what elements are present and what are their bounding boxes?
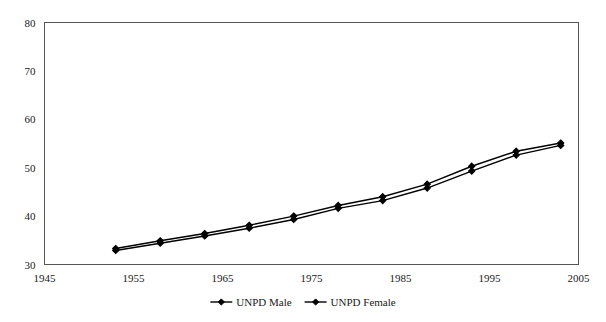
legend-item-unpd-female[interactable]: UNPD Female [305, 296, 396, 308]
x-tick-label: 2005 [568, 272, 591, 284]
legend-marker-icon [313, 299, 319, 305]
x-axis-tick-labels: 1945195519651975198519952005 [34, 272, 591, 284]
x-tick-label: 1945 [34, 272, 57, 284]
y-tick-label: 60 [25, 113, 37, 125]
chart-canvas: 304050607080 194519551965197519851995200… [0, 0, 606, 322]
legend-label: UNPD Female [331, 296, 396, 308]
y-axis-tick-labels: 304050607080 [25, 17, 37, 271]
x-tick-label: 1975 [301, 272, 324, 284]
y-tick-label: 80 [25, 17, 37, 29]
line-chart: 304050607080 194519551965197519851995200… [0, 0, 606, 322]
x-tick-label: 1995 [479, 272, 502, 284]
x-tick-label: 1965 [212, 272, 235, 284]
y-tick-label: 30 [25, 259, 37, 271]
x-tick-label: 1955 [123, 272, 146, 284]
y-tick-label: 40 [25, 210, 37, 222]
legend-marker-icon [218, 299, 224, 305]
y-tick-label: 50 [25, 162, 37, 174]
chart-legend: UNPD MaleUNPD Female [210, 296, 395, 308]
x-tick-label: 1985 [390, 272, 413, 284]
legend-label: UNPD Male [236, 296, 291, 308]
legend-item-unpd-male[interactable]: UNPD Male [210, 296, 291, 308]
y-tick-label: 70 [25, 65, 37, 77]
plot-area-frame [45, 23, 579, 265]
